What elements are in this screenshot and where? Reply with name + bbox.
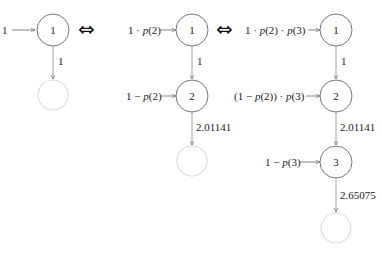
edge-label: 2.01141 <box>196 121 231 133</box>
node-label: 2 <box>189 90 195 102</box>
edge-label: 1 <box>58 55 64 67</box>
chain-1: 1 1 1 <box>2 14 69 110</box>
chain-3: 1 · p(2) · p(3) 1 1 (1 − p(2)) · p(3) 2 … <box>234 14 376 243</box>
input-label-2: (1 − p(2)) · p(3) <box>234 90 305 103</box>
node-label: 2 <box>333 90 339 102</box>
edge-label: 1 <box>197 55 203 67</box>
input-label: 1 <box>2 24 8 36</box>
edge-label: 2.65075 <box>340 189 376 201</box>
equivalence-icon: ⇔ <box>216 17 233 41</box>
node-label: 1 <box>333 24 339 36</box>
node-label: 1 <box>189 24 195 36</box>
edge-label: 2.01141 <box>340 121 375 133</box>
input-label-1: 1 · p(2) <box>128 24 161 37</box>
equivalence-icon: ⇔ <box>78 17 95 41</box>
terminal-node <box>321 213 351 243</box>
node-label: 3 <box>333 156 339 168</box>
terminal-node <box>177 146 207 176</box>
input-label-1: 1 · p(2) · p(3) <box>245 24 306 37</box>
terminal-node <box>38 80 68 110</box>
edge-label: 1 <box>341 55 347 67</box>
markov-chain-diagram: 1 1 1 ⇔ 1 · p(2) 1 1 1 − p(2) 2 2.01141 … <box>0 0 382 258</box>
input-label-3: 1 − p(3) <box>265 156 301 169</box>
input-label-2: 1 − p(2) <box>126 90 162 103</box>
node-label: 1 <box>50 24 56 36</box>
